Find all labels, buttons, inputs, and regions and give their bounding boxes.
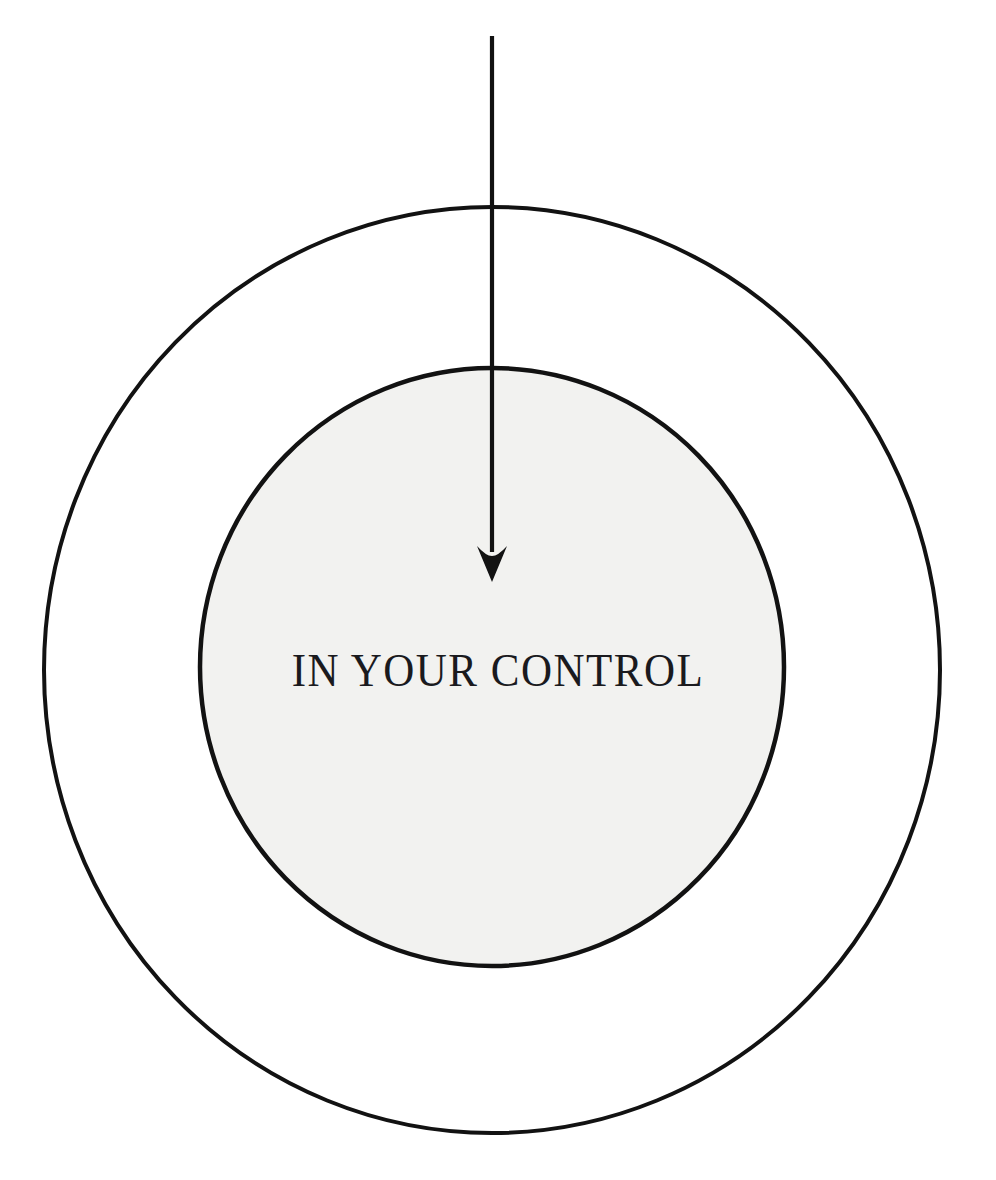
diagram-canvas: IN YOUR CONTROL — [0, 0, 996, 1180]
concentric-circles-diagram — [0, 0, 996, 1180]
center-label-text: IN YOUR CONTROL — [0, 644, 996, 699]
